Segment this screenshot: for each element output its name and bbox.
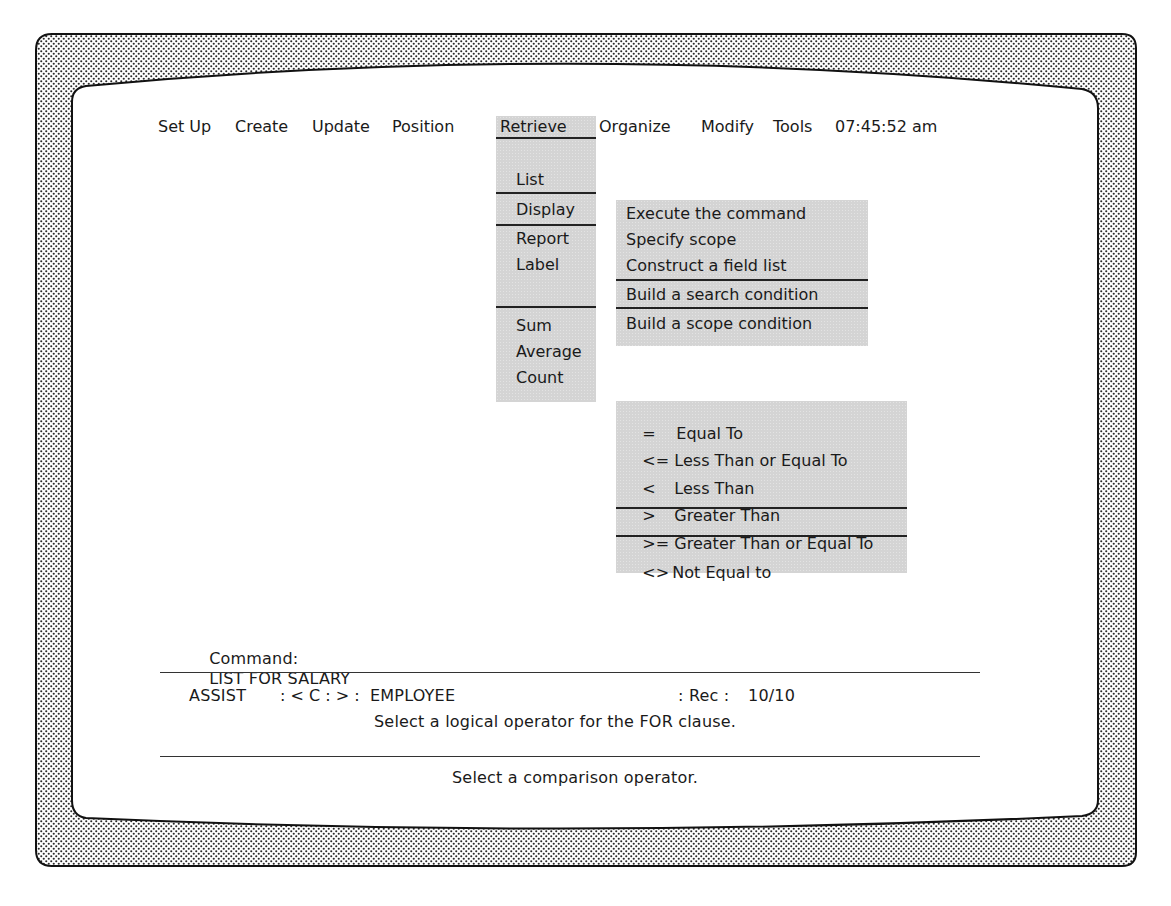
separator [616,535,907,537]
menu-tools[interactable]: Tools [773,116,812,138]
status-divider-top [160,672,980,673]
retrieve-item-sum[interactable]: Sum [516,315,552,337]
operator-symbol: <> [640,562,672,584]
retrieve-item-count[interactable]: Count [516,367,564,389]
operator-not-equal[interactable]: <>Not Equal to [620,540,771,606]
retrieve-item-label[interactable]: Label [516,254,559,276]
separator [616,307,868,309]
status-file: EMPLOYEE [370,686,455,706]
retrieve-item-list[interactable]: List [516,169,544,191]
retrieve-header-underline [496,137,596,139]
submenu-construct-field-list[interactable]: Construct a field list [626,255,787,277]
message-line: Select a comparison operator. [452,768,698,788]
command-label: Command: [209,649,298,668]
submenu-build-scope-condition[interactable]: Build a scope condition [626,313,812,335]
status-rec-label: : Rec : [678,686,729,706]
operator-label: Not Equal to [672,563,771,582]
menu-create[interactable]: Create [235,116,288,138]
submenu-execute[interactable]: Execute the command [626,203,806,225]
retrieve-item-report[interactable]: Report [516,228,569,250]
clock: 07:45:52 am [835,116,937,138]
status-drive: : < C : > : [280,686,360,706]
list-selected-top [496,192,596,194]
retrieve-item-average[interactable]: Average [516,341,582,363]
menu-bar: Set Up Create Update Position Retrieve O… [158,116,178,138]
dbase-screen: Set Up Create Update Position Retrieve O… [0,0,1171,906]
submenu-build-search-condition[interactable]: Build a search condition [626,284,818,306]
status-rec-value: 10/10 [748,686,795,706]
menu-update[interactable]: Update [312,116,370,138]
menu-retrieve[interactable]: Retrieve [500,116,567,138]
separator [616,279,868,281]
status-divider-bottom [160,756,980,757]
menu-modify[interactable]: Modify [701,116,754,138]
menu-organize[interactable]: Organize [599,116,671,138]
submenu-specify-scope[interactable]: Specify scope [626,229,736,251]
retrieve-item-display[interactable]: Display [516,199,575,221]
separator [616,507,907,509]
status-mode: ASSIST [189,686,246,706]
status-hint: Select a logical operator for the FOR cl… [374,712,736,732]
menu-set-up[interactable]: Set Up [158,116,211,138]
separator [496,224,596,226]
menu-position[interactable]: Position [392,116,454,138]
separator [496,306,596,308]
